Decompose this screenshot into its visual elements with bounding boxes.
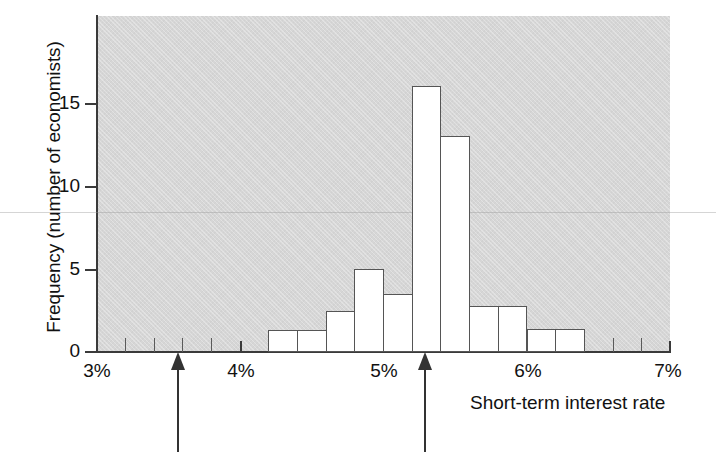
histogram-bar [440, 136, 470, 352]
histogram-bar [383, 294, 413, 352]
y-tick-label-5: 5 [40, 259, 80, 278]
arrow-marker-low-stem [177, 368, 179, 452]
histogram-bar [469, 306, 499, 352]
histogram-bar [498, 306, 528, 352]
y-tick-15 [85, 103, 96, 105]
x-major-tick-3pct [96, 341, 98, 353]
histogram-bar [268, 330, 298, 352]
x-axis-title: Short-term interest rate [470, 392, 665, 414]
histogram-bar [354, 269, 384, 352]
y-tick-10 [85, 186, 96, 188]
x-tick-label-7pct: 7% [638, 360, 698, 382]
x-tick-label-6pct: 6% [498, 360, 558, 382]
x-minor-tick [125, 338, 126, 352]
x-major-tick-4pct [240, 341, 242, 353]
arrow-marker-low-head [171, 352, 185, 370]
y-tick-label-group: 15 10 5 0 [36, 0, 80, 360]
x-minor-tick [154, 338, 155, 352]
scan-artifact-line [0, 212, 716, 213]
y-tick-label-0: 0 [40, 341, 80, 360]
histogram-figure: Frequency (number of economists) 15 10 5… [0, 0, 716, 454]
y-tick-5 [85, 269, 96, 271]
y-axis-line [96, 15, 98, 352]
x-tick-label-3pct: 3% [67, 360, 127, 382]
histogram-bar [297, 330, 327, 352]
arrow-marker-high-stem [424, 368, 426, 452]
x-tick-label-5pct: 5% [354, 360, 414, 382]
y-tick-0 [85, 351, 96, 353]
x-minor-tick [641, 338, 642, 352]
x-major-tick-7pct [669, 341, 671, 353]
x-minor-tick [182, 338, 183, 352]
y-tick-label-15: 15 [40, 93, 80, 112]
histogram-bar [527, 329, 557, 352]
arrow-marker-high-head [418, 352, 432, 370]
x-tick-label-4pct: 4% [211, 360, 271, 382]
x-minor-tick [211, 338, 212, 352]
y-tick-label-10: 10 [40, 176, 80, 195]
histogram-bar [555, 329, 585, 352]
histogram-bar [412, 86, 442, 352]
histogram-bar [326, 311, 356, 353]
x-minor-tick [613, 338, 614, 352]
